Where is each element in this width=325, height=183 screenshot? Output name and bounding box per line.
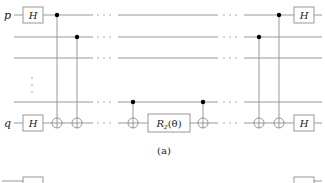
svg-text:H: H [28, 10, 38, 21]
cnot-2-q-right [254, 35, 264, 128]
control-dot [257, 35, 261, 39]
cnot-p-q-right [274, 13, 284, 128]
wires-right [244, 15, 322, 123]
hadamard-gate-p-right: H [294, 7, 314, 23]
hadamard-gate-q-right: H [294, 115, 314, 131]
quantum-circuit: p q [0, 0, 325, 183]
svg-text:H: H [299, 118, 309, 129]
cnot-mid-2 [198, 100, 208, 128]
hadamard-gate-p-left: H [23, 7, 43, 23]
svg-text:H: H [299, 10, 309, 21]
svg-text:H: H [28, 118, 38, 129]
qubit-label-p: p [4, 9, 11, 22]
wires-left [14, 15, 93, 123]
control-dot [277, 13, 281, 17]
cnot-2-q [72, 35, 82, 128]
cnot-mid-1 [128, 100, 138, 128]
control-dot [201, 100, 205, 104]
control-dot [55, 13, 59, 17]
control-dot [131, 100, 135, 104]
cnot-p-q [52, 13, 62, 128]
next-figure-partial [2, 177, 322, 183]
ellipsis-left [97, 14, 110, 123]
hadamard-gate-q-left: H [23, 115, 43, 131]
ellipsis-right [223, 14, 236, 123]
control-dot [75, 35, 79, 39]
rz-gate: Rz(θ) [148, 114, 190, 132]
vertical-ellipsis [31, 77, 32, 92]
qubit-label-q: q [4, 117, 11, 130]
figure-caption: (a) [157, 145, 171, 156]
